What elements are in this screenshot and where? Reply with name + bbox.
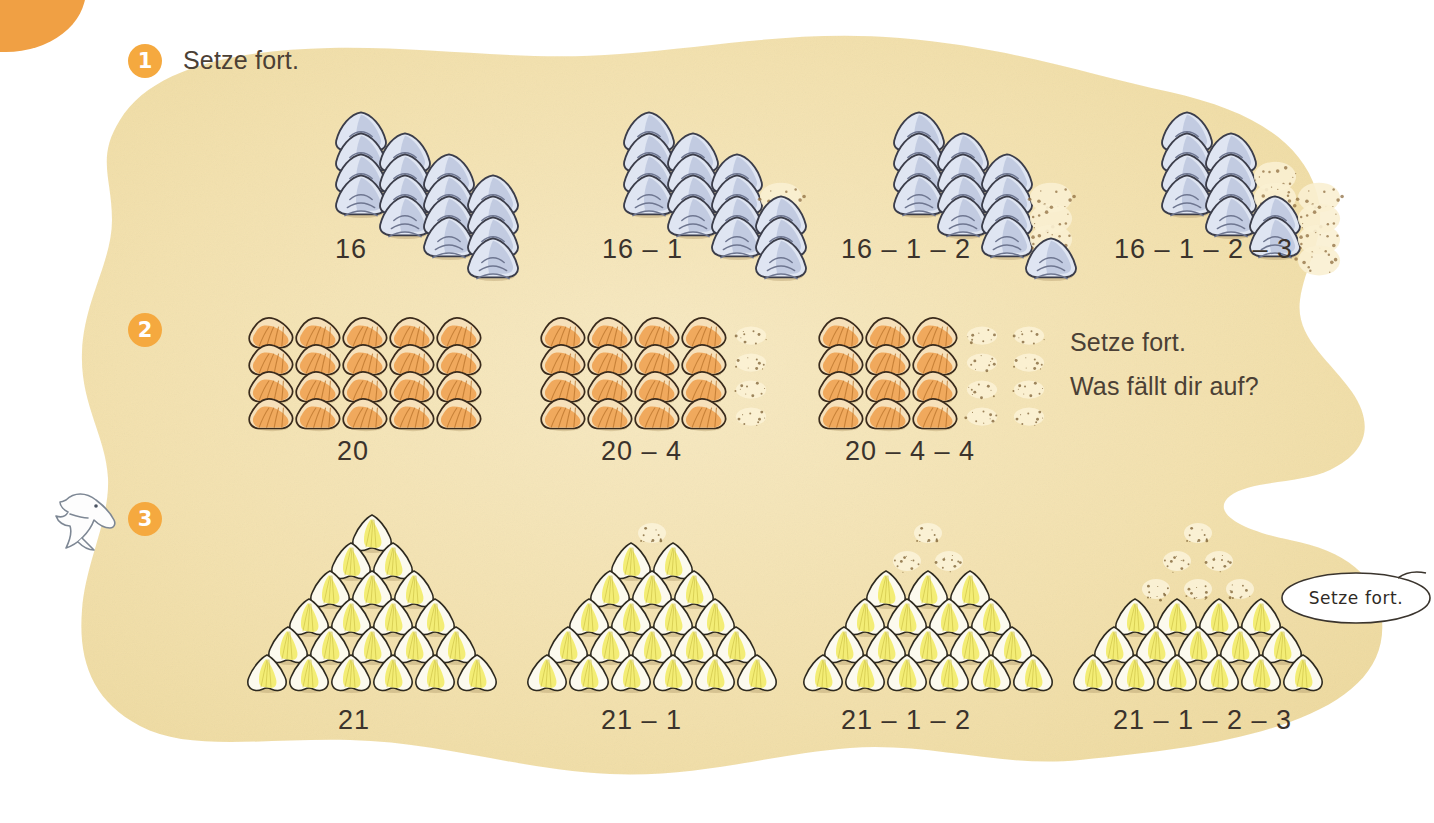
exercise-2-instruction-line2: Was fällt dir auf?	[1070, 372, 1259, 401]
shell-group-16	[232, 104, 492, 234]
caption-16-1-2: 16 – 1 – 2	[841, 234, 971, 265]
shell	[630, 395, 684, 435]
shell-imprint	[1288, 234, 1350, 286]
shell	[385, 395, 439, 435]
shell	[462, 234, 524, 286]
exercise-badge-1[interactable]: 1	[128, 44, 162, 78]
exercise-1-instruction: Setze fort.	[183, 46, 299, 75]
shell-group-20	[244, 314, 504, 434]
shell	[583, 395, 637, 435]
caption-20-4-4: 20 – 4 – 4	[845, 436, 975, 467]
shell-group-21-1	[512, 512, 772, 702]
caption-21-1-2-3: 21 – 1 – 2 – 3	[1113, 705, 1292, 736]
shell	[452, 652, 502, 696]
shell	[732, 652, 782, 696]
shell-group-21	[232, 512, 492, 702]
caption-20: 20	[337, 436, 369, 467]
shell-imprint	[955, 395, 1009, 435]
shell-imprint	[1002, 395, 1056, 435]
shell	[1008, 652, 1058, 696]
caption-21-1: 21 – 1	[601, 705, 682, 736]
dolphin-icon	[52, 484, 122, 556]
shell	[1278, 652, 1328, 696]
shell	[750, 234, 812, 286]
shell-group-20-4-4	[814, 314, 1074, 434]
shell-group-16-1-2-3	[1058, 104, 1318, 234]
shell	[338, 395, 392, 435]
caption-21-1-2: 21 – 1 – 2	[841, 705, 971, 736]
shell	[244, 395, 298, 435]
worksheet-page: 1 2 3 Setze fort. Setze fort. Was fällt …	[0, 0, 1434, 823]
speech-bubble-text: Setze fort.	[1280, 570, 1432, 626]
shell-group-21-1-2	[788, 512, 1048, 702]
shell-group-16-1-2	[790, 104, 1050, 234]
shell	[1020, 234, 1082, 286]
shell-group-20-4	[536, 314, 796, 434]
caption-16-1-2-3: 16 – 1 – 2 – 3	[1114, 234, 1293, 265]
shell-group-16-1	[520, 104, 780, 234]
shell	[432, 395, 486, 435]
shell-imprint	[724, 395, 778, 435]
exercise-badge-3[interactable]: 3	[128, 502, 162, 536]
caption-16: 16	[335, 234, 367, 265]
caption-20-4: 20 – 4	[601, 436, 682, 467]
shell	[677, 395, 731, 435]
exercise-2-instruction-line1: Setze fort.	[1070, 328, 1186, 357]
shell	[861, 395, 915, 435]
shell	[908, 395, 962, 435]
shell	[536, 395, 590, 435]
exercise-badge-2[interactable]: 2	[128, 313, 162, 347]
shell	[814, 395, 868, 435]
speech-bubble: Setze fort.	[1280, 570, 1432, 626]
shell	[291, 395, 345, 435]
caption-21: 21	[338, 705, 370, 736]
shell-group-21-1-2-3	[1058, 512, 1318, 702]
caption-16-1: 16 – 1	[602, 234, 683, 265]
